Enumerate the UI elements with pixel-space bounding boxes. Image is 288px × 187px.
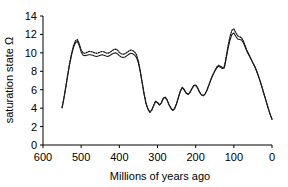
x-tick-label: 500 (72, 151, 90, 163)
x-tick-label: 100 (225, 151, 243, 163)
x-tick-label: 200 (186, 151, 204, 163)
x-tick-label: 600 (34, 151, 52, 163)
y-tick-label: 12 (25, 28, 37, 40)
x-axis-title: Millions of years ago (110, 170, 210, 182)
y-tick-label: 10 (25, 47, 37, 59)
y-tick-label: 2 (31, 121, 37, 133)
y-tick-label: 8 (31, 65, 37, 77)
chart-canvas: 02468101214 6005004003002001000 saturati… (0, 0, 288, 187)
y-tick-label: 14 (25, 10, 37, 22)
saturation-state-chart: 02468101214 6005004003002001000 saturati… (0, 0, 288, 187)
y-axis-title: saturation state Ω (3, 37, 15, 124)
x-tick-label: 400 (110, 151, 128, 163)
y-tick-label: 4 (31, 102, 37, 114)
x-tick-label: 300 (148, 151, 166, 163)
y-tick-label: 0 (31, 139, 37, 151)
x-tick-label: 0 (269, 151, 275, 163)
y-tick-label: 6 (31, 84, 37, 96)
